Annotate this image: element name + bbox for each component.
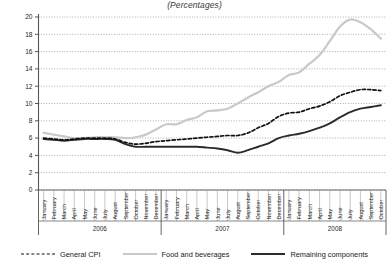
chart-plot-area: 02468101214161820 JanuaryFebruaryMarchAp… — [0, 0, 389, 245]
svg-text:February: February — [51, 197, 57, 220]
svg-text:September: September — [123, 192, 129, 219]
svg-text:2006: 2006 — [93, 225, 108, 232]
svg-text:16: 16 — [25, 48, 33, 55]
dark-line-icon — [251, 250, 285, 258]
svg-text:20: 20 — [25, 13, 33, 20]
svg-text:September: September — [245, 192, 251, 219]
legend-item-remaining-components[interactable]: Remaining components — [251, 250, 368, 259]
svg-text:January: January — [286, 199, 292, 219]
svg-text:8: 8 — [29, 117, 33, 124]
svg-text:September: September — [368, 192, 374, 219]
svg-text:June: June — [215, 207, 221, 219]
svg-text:April: April — [194, 208, 200, 219]
svg-text:March: March — [61, 204, 67, 220]
svg-text:2008: 2008 — [328, 225, 343, 232]
svg-text:February: February — [174, 197, 180, 220]
svg-text:May: May — [327, 209, 333, 220]
svg-text:18: 18 — [25, 31, 33, 38]
svg-text:August: August — [112, 202, 118, 220]
svg-text:12: 12 — [25, 83, 33, 90]
legend-item-food-and-beverages[interactable]: Food and beverages — [123, 250, 230, 259]
svg-text:June: June — [337, 207, 343, 219]
chart-legend: General CPIFood and beveragesRemaining c… — [0, 243, 389, 265]
svg-text:March: March — [184, 204, 190, 220]
svg-text:2: 2 — [29, 169, 33, 176]
svg-text:June: June — [92, 207, 98, 219]
svg-text:October: October — [378, 199, 384, 219]
svg-text:6: 6 — [29, 134, 33, 141]
svg-text:October: October — [255, 199, 261, 219]
series-line-general-cpi — [44, 89, 381, 144]
legend-label: Food and beverages — [162, 250, 230, 259]
year-labels: 200620072008 — [93, 225, 343, 232]
svg-text:July: July — [347, 209, 353, 219]
x-tick-labels: JanuaryFebruaryMarchAprilMayJuneJulyAugu… — [41, 192, 384, 219]
legend-label: General CPI — [60, 250, 101, 259]
svg-text:July: July — [102, 209, 108, 219]
svg-text:May: May — [204, 209, 210, 220]
svg-text:December: December — [276, 194, 282, 220]
y-tick-labels: 02468101214161820 — [25, 13, 33, 193]
light-line-icon — [123, 250, 157, 258]
legend-label: Remaining components — [290, 250, 368, 259]
dashed-line-icon — [21, 250, 55, 258]
y-gridlines — [39, 17, 387, 190]
svg-text:April: April — [317, 208, 323, 219]
series-line-remaining-components — [44, 105, 381, 153]
y-axis — [35, 14, 386, 190]
svg-text:4: 4 — [29, 152, 33, 159]
svg-text:April: April — [71, 208, 77, 219]
chart-container: (Percentages) 02468101214161820 JanuaryF… — [0, 0, 389, 267]
svg-text:14: 14 — [25, 65, 33, 72]
svg-text:August: August — [358, 202, 364, 220]
svg-text:October: October — [133, 199, 139, 219]
svg-text:November: November — [143, 194, 149, 220]
series-line-food-and-beverages — [44, 19, 381, 138]
svg-text:March: March — [307, 204, 313, 220]
svg-text:0: 0 — [29, 186, 33, 193]
svg-text:August: August — [235, 202, 241, 220]
svg-text:December: December — [153, 194, 159, 220]
svg-text:July: July — [225, 209, 231, 219]
legend-item-general-cpi[interactable]: General CPI — [21, 250, 101, 259]
svg-text:January: January — [163, 199, 169, 219]
svg-text:2007: 2007 — [215, 225, 230, 232]
svg-text:November: November — [266, 194, 272, 220]
svg-text:May: May — [82, 209, 88, 220]
svg-text:10: 10 — [25, 100, 33, 107]
svg-text:January: January — [41, 199, 47, 219]
svg-text:February: February — [296, 197, 302, 220]
